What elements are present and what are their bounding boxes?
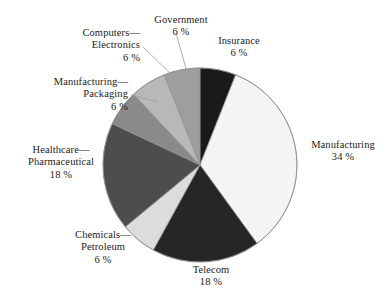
pie-label-chemicals-petroleum: Chemicals— Petroleum 6 % bbox=[56, 229, 150, 266]
pie-label-percent: 6 % bbox=[196, 47, 282, 59]
leader-line-computers-electronics bbox=[143, 47, 173, 76]
pie-label-name-line1: Telecom bbox=[168, 264, 254, 276]
pie-label-name-line1: Manufacturing bbox=[296, 139, 390, 151]
pie-label-name-line2: Petroleum bbox=[56, 241, 150, 253]
pie-label-name-line2: Pharmaceutical bbox=[2, 156, 120, 168]
pie-label-manufacturing-packaging: Manufacturing— Packaging 6 % bbox=[10, 76, 128, 113]
pie-label-percent: 18 % bbox=[168, 276, 254, 288]
pie-label-healthcare-pharmaceutical: Healthcare— Pharmaceutical 18 % bbox=[2, 144, 120, 181]
pie-label-percent: 6 % bbox=[42, 52, 140, 64]
pie-label-percent: 6 % bbox=[10, 101, 128, 113]
pie-label-percent: 34 % bbox=[296, 151, 390, 163]
pie-chart-figure: Computers— Electronics 6 % Government 6 … bbox=[0, 0, 392, 308]
pie-label-name-line1: Healthcare— bbox=[2, 144, 120, 156]
pie-label-name-line1: Chemicals— bbox=[56, 229, 150, 241]
pie-label-manufacturing: Manufacturing 34 % bbox=[296, 139, 390, 164]
pie-label-computers-electronics: Computers— Electronics 6 % bbox=[42, 27, 140, 64]
pie-label-percent: 6 % bbox=[56, 254, 150, 266]
pie-label-name-line1: Insurance bbox=[196, 35, 282, 47]
leader-line-government bbox=[176, 33, 187, 72]
pie-label-name-line1: Manufacturing— bbox=[10, 76, 128, 88]
pie-label-insurance: Insurance 6 % bbox=[196, 35, 282, 60]
pie-label-name-line1: Computers— bbox=[42, 27, 140, 39]
pie-label-percent: 18 % bbox=[2, 169, 120, 181]
pie-label-name-line2: Packaging bbox=[10, 88, 128, 100]
pie-label-telecom: Telecom 18 % bbox=[168, 264, 254, 289]
pie-label-name-line1: Government bbox=[138, 14, 224, 26]
pie-label-name-line2: Electronics bbox=[42, 39, 140, 51]
